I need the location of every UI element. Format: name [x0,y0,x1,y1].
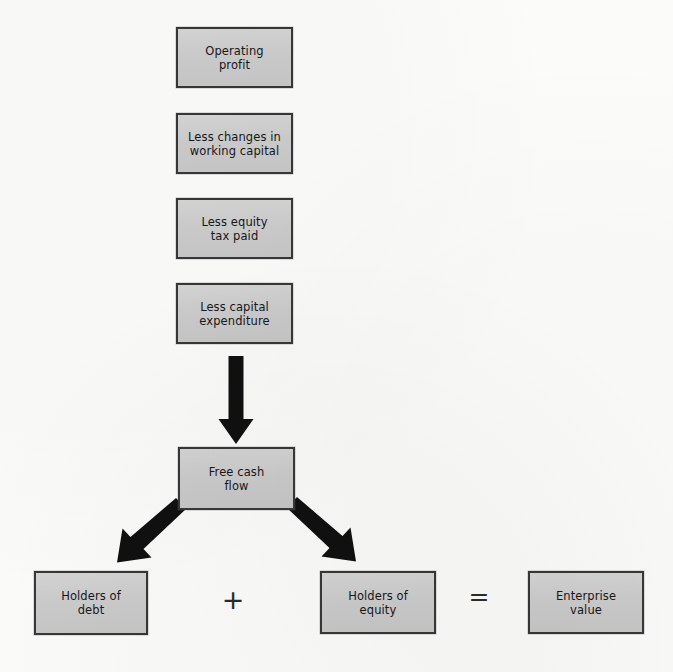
node-enterprise-value[interactable]: Enterprise value [528,571,644,634]
node-less-equity-tax-paid[interactable]: Less equity tax paid [176,198,293,259]
operator-equals: = [464,584,494,609]
node-holders-of-equity-label: Holders of equity [345,589,411,617]
node-operating-profit-label: Operating profit [202,44,266,72]
node-less-capital-expenditure[interactable]: Less capital expenditure [176,283,293,344]
node-holders-of-debt-label: Holders of debt [58,589,124,617]
node-holders-of-debt[interactable]: Holders of debt [34,571,148,635]
node-less-changes-in-working-capital-label: Less changes in working capital [185,130,284,158]
node-less-changes-in-working-capital[interactable]: Less changes in working capital [176,113,293,174]
down-arrow-to-free-cash-flow-icon [219,356,254,444]
node-operating-profit[interactable]: Operating profit [176,27,293,88]
branch-arrow-to-holders-of-debt-icon [117,498,187,563]
branch-arrow-to-holders-of-equity-icon [287,497,357,562]
node-enterprise-value-label: Enterprise value [553,589,619,617]
operator-plus: + [218,586,248,613]
node-free-cash-flow-label: Free cash flow [206,465,268,493]
node-holders-of-equity[interactable]: Holders of equity [320,571,436,634]
node-free-cash-flow[interactable]: Free cash flow [178,447,295,510]
node-less-capital-expenditure-label: Less capital expenditure [196,300,272,328]
node-less-equity-tax-paid-label: Less equity tax paid [198,215,270,243]
diagram-canvas: Operating profit Less changes in working… [0,0,673,672]
